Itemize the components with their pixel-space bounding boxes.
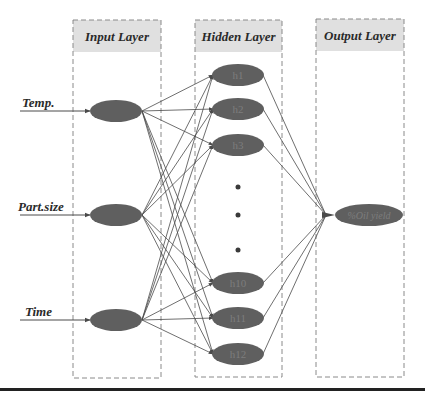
input-to-hidden-connections	[142, 75, 213, 354]
connection-line	[263, 215, 326, 318]
input-label: Time	[25, 304, 52, 319]
neural-network-diagram: Input Layer Hidden Layer Output Layer Te…	[0, 0, 425, 397]
output-layer-panel: Output Layer	[316, 19, 404, 377]
bottom-rule	[0, 388, 425, 391]
input-nodes	[90, 100, 142, 331]
input-label: Temp.	[22, 95, 54, 110]
connection-line	[142, 75, 213, 320]
hidden-node-label: h12	[230, 348, 247, 360]
output-node: %Oil yield	[335, 204, 403, 226]
hidden-to-output-connections	[263, 75, 335, 354]
connection-line	[142, 318, 213, 320]
ellipsis-dot	[236, 213, 241, 218]
connection-line	[263, 75, 326, 215]
hidden-node-label: h2	[233, 103, 244, 115]
connection-line	[263, 109, 326, 215]
input-node	[90, 309, 142, 331]
input-node	[90, 100, 142, 122]
connection-line	[142, 75, 213, 215]
connection-line	[142, 145, 213, 320]
hidden-node-label: h1	[233, 69, 244, 81]
connection-line	[142, 215, 213, 283]
input-feed-arrows: Temp.Part.sizeTime	[18, 95, 90, 320]
connection-line	[263, 145, 326, 215]
connection-line	[142, 75, 213, 111]
connection-line	[142, 145, 213, 215]
input-label: Part.size	[18, 199, 64, 214]
hidden-node-label: h3	[233, 139, 245, 151]
connection-line	[142, 109, 213, 215]
connection-line	[263, 215, 326, 283]
ellipsis-dot	[236, 185, 241, 190]
connection-line	[263, 215, 326, 354]
hidden-node-label: h10	[230, 277, 247, 289]
ellipsis-dot	[236, 248, 241, 253]
input-node	[90, 204, 142, 226]
connection-line	[142, 215, 213, 318]
hidden-layer-title: Hidden Layer	[200, 29, 276, 44]
connection-line	[142, 320, 213, 354]
output-node-label: %Oil yield	[347, 210, 391, 221]
hidden-node-label: h11	[230, 312, 246, 324]
output-layer-box	[316, 19, 404, 377]
ellipsis-dots	[236, 185, 241, 253]
output-layer-title: Output Layer	[324, 28, 397, 43]
arrow-head-icon	[322, 212, 335, 218]
input-layer-title: Input Layer	[84, 29, 150, 44]
